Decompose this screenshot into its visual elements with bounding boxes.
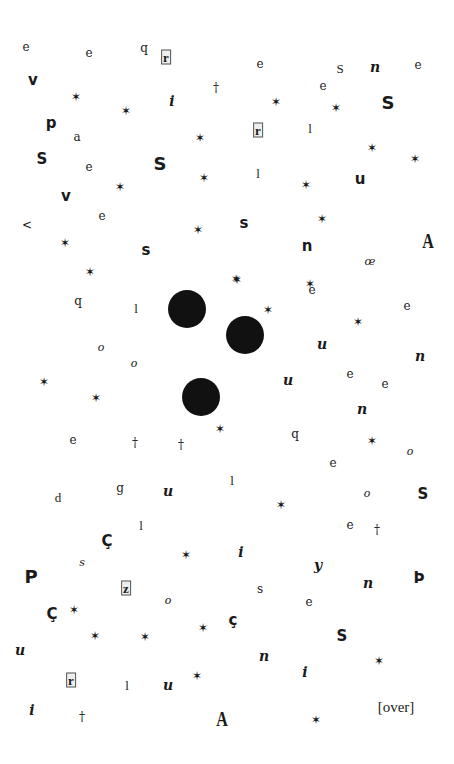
glyph: u xyxy=(163,678,173,692)
star-icon: ✶ xyxy=(311,714,321,726)
star-icon: ✶ xyxy=(195,132,205,144)
glyph: p xyxy=(46,116,57,131)
glyph: e xyxy=(305,596,312,608)
glyph: y xyxy=(314,558,322,572)
star-icon: ✶ xyxy=(374,655,384,667)
glyph: l xyxy=(230,474,234,487)
star-icon: ✶ xyxy=(39,376,49,388)
star-icon: ✶ xyxy=(367,142,377,154)
glyph: S xyxy=(37,152,48,167)
glyph: † xyxy=(79,711,85,723)
glyph: † xyxy=(132,437,138,449)
glyph: d xyxy=(55,491,62,504)
glyph: S xyxy=(337,629,348,644)
star-icon: ✶ xyxy=(263,304,273,316)
star-icon: ✶ xyxy=(140,631,150,643)
star-icon: ✶ xyxy=(193,224,203,236)
star-icon: ✶ xyxy=(91,392,101,404)
star-icon: ✶ xyxy=(85,266,95,278)
glyph: i xyxy=(238,545,243,559)
glyph: † xyxy=(213,82,219,94)
glyph: v xyxy=(61,189,71,204)
glyph: u xyxy=(163,484,173,498)
glyph: q xyxy=(74,295,82,307)
glyph: n xyxy=(415,349,425,363)
glyph: e xyxy=(69,434,76,446)
glyph: o xyxy=(165,595,172,606)
glyph: s xyxy=(257,583,263,595)
glyph: r xyxy=(161,50,171,65)
star-icon: ✶ xyxy=(353,316,363,328)
glyph: a xyxy=(73,131,80,143)
glyph: q xyxy=(291,428,299,440)
star-icon: ✶ xyxy=(181,549,191,561)
glyph: e xyxy=(414,59,421,71)
glyph: i xyxy=(29,703,34,717)
star-icon: ✶ xyxy=(331,102,341,114)
black-dot xyxy=(226,316,264,354)
star-icon: ✶ xyxy=(367,435,377,447)
glyph: Ç xyxy=(101,534,112,549)
glyph: S xyxy=(382,94,395,112)
glyph: e xyxy=(85,47,92,59)
glyph: u xyxy=(283,373,293,387)
star-icon: ✶ xyxy=(271,96,281,108)
glyph: o xyxy=(98,342,105,353)
glyph: l xyxy=(134,302,138,315)
glyph: e xyxy=(98,210,105,222)
glyph: e xyxy=(346,368,353,380)
glyph: z xyxy=(121,581,131,596)
over-label: [over] xyxy=(378,699,415,716)
star-icon: ✶ xyxy=(90,630,100,642)
glyph: e xyxy=(22,41,29,53)
glyph: e xyxy=(346,519,353,531)
glyph: e xyxy=(403,300,410,312)
glyph: l xyxy=(125,679,129,692)
star-icon: ✶ xyxy=(192,670,202,682)
star-icon: ✶ xyxy=(410,153,420,165)
star-icon: ✶ xyxy=(215,423,225,435)
glyph: l xyxy=(308,122,312,135)
glyph: l xyxy=(139,519,143,532)
black-dot xyxy=(168,290,206,328)
star-icon: ✶ xyxy=(115,181,125,193)
star-icon: ✶ xyxy=(69,604,79,616)
glyph: † xyxy=(178,439,184,451)
glyph: e xyxy=(319,80,326,92)
glyph: s xyxy=(142,243,151,258)
star-icon: ✶ xyxy=(232,274,242,286)
glyph: œ xyxy=(365,256,376,267)
glyph: S xyxy=(418,487,429,502)
glyph: s xyxy=(79,557,85,568)
star-icon: ✶ xyxy=(199,172,209,184)
glyph: S xyxy=(154,155,167,173)
glyph: o xyxy=(131,358,138,369)
glyph: P xyxy=(24,568,37,586)
star-icon: ✶ xyxy=(60,237,70,249)
glyph: i xyxy=(169,94,174,108)
glyph: l xyxy=(256,167,260,180)
star-icon: ✶ xyxy=(317,213,327,225)
star-icon: ✶ xyxy=(301,179,311,191)
glyph: n xyxy=(370,60,380,74)
glyph: Ç xyxy=(46,607,57,622)
glyph: o xyxy=(364,488,371,499)
glyph: q xyxy=(140,42,148,54)
star-icon: ✶ xyxy=(121,105,131,117)
glyph: n xyxy=(259,649,269,663)
glyph: ç xyxy=(229,613,238,628)
glyph: g xyxy=(116,482,124,494)
glyph: † xyxy=(374,524,380,536)
glyph: n xyxy=(357,402,367,416)
glyph: u xyxy=(15,643,25,657)
glyph: v xyxy=(28,73,38,88)
black-dot xyxy=(182,378,220,416)
glyph: u xyxy=(355,172,366,187)
star-icon: ✶ xyxy=(198,622,208,634)
glyph: S xyxy=(336,62,343,75)
glyph: e xyxy=(85,161,92,173)
glyph: u xyxy=(317,337,327,351)
glyph: < xyxy=(22,219,32,231)
star-icon: ✶ xyxy=(276,499,286,511)
glyph: e xyxy=(381,378,388,390)
